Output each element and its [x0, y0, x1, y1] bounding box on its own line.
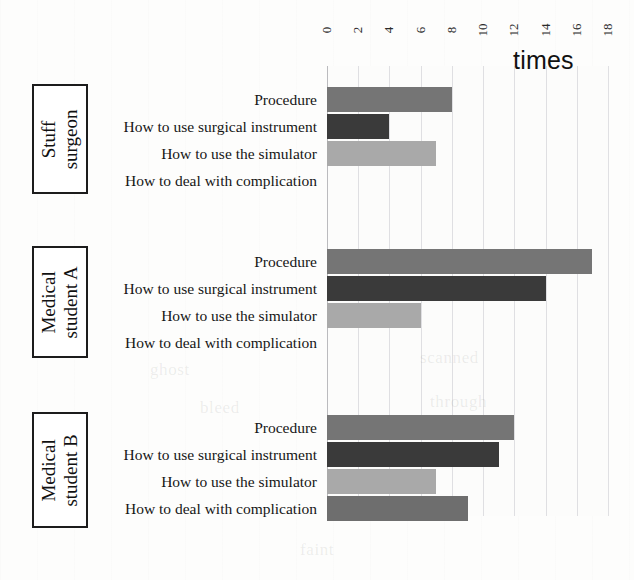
- chart-root: 024681012141618 times StuffsurgeonProced…: [0, 0, 634, 580]
- bar-row: How to use the simulator: [0, 140, 634, 167]
- category-label: How to use surgical instrument: [124, 441, 317, 468]
- bar: [327, 496, 468, 521]
- category-label: Procedure: [254, 86, 317, 113]
- axis-tick-6: 6: [413, 17, 429, 43]
- bar-row: How to deal with complication: [0, 329, 634, 356]
- category-label: How to use surgical instrument: [124, 113, 317, 140]
- bar-row: How to use surgical instrument: [0, 441, 634, 468]
- bar-row: How to use surgical instrument: [0, 113, 634, 140]
- bar: [327, 415, 514, 440]
- bar-row: How to use the simulator: [0, 468, 634, 495]
- axis-tick-18: 18: [600, 17, 616, 43]
- category-label: How to use the simulator: [161, 140, 317, 167]
- axis-tick-10: 10: [475, 17, 491, 43]
- bar-row: How to use surgical instrument: [0, 275, 634, 302]
- axis-tick-8: 8: [444, 17, 460, 43]
- bar-row: How to use the simulator: [0, 302, 634, 329]
- axis-tick-4: 4: [381, 17, 397, 43]
- bar-row: Procedure: [0, 248, 634, 275]
- bar: [327, 303, 421, 328]
- category-label: How to deal with complication: [125, 167, 317, 194]
- axis-tick-16: 16: [569, 17, 585, 43]
- bar-row: How to deal with complication: [0, 495, 634, 522]
- axis-tick-14: 14: [538, 17, 554, 43]
- ghost-text: faint: [300, 540, 334, 560]
- bar: [327, 276, 546, 301]
- category-label: How to deal with complication: [125, 495, 317, 522]
- axis-tick-2: 2: [350, 17, 366, 43]
- category-label: How to use the simulator: [161, 468, 317, 495]
- category-label: How to use the simulator: [161, 302, 317, 329]
- bar: [327, 141, 436, 166]
- ghost-text: ghost: [150, 360, 190, 380]
- category-label: How to use surgical instrument: [124, 275, 317, 302]
- bar: [327, 249, 592, 274]
- category-label: Procedure: [254, 414, 317, 441]
- bar-row: Procedure: [0, 414, 634, 441]
- category-label: How to deal with complication: [125, 329, 317, 356]
- bar: [327, 114, 389, 139]
- axis-tick-0: 0: [319, 17, 335, 43]
- bar-row: Procedure: [0, 86, 634, 113]
- category-label: Procedure: [254, 248, 317, 275]
- axis-unit-label: times: [513, 46, 574, 75]
- bar: [327, 469, 436, 494]
- bar: [327, 442, 499, 467]
- bar-row: How to deal with complication: [0, 167, 634, 194]
- axis-tick-12: 12: [506, 17, 522, 43]
- bar: [327, 87, 452, 112]
